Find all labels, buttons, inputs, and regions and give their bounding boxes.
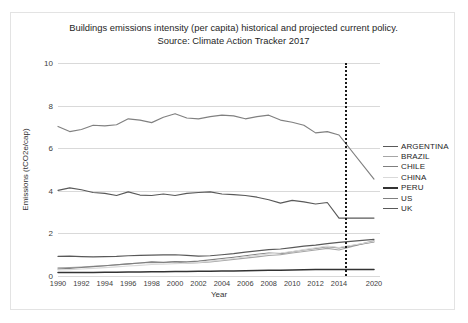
legend-swatch-icon: [383, 156, 398, 157]
series-line-brazil: [58, 241, 374, 268]
data-lines: [58, 63, 380, 276]
legend-item-china[interactable]: CHINA: [383, 172, 449, 182]
y-tick-label: 2: [49, 229, 53, 238]
legend-item-label: CHINA: [401, 173, 426, 182]
legend-item-chile[interactable]: CHILE: [383, 162, 449, 172]
y-tick-label: 10: [44, 59, 53, 68]
legend-item-uk[interactable]: UK: [383, 203, 449, 213]
x-tick-label: 2006: [237, 279, 253, 288]
legend-item-brazil[interactable]: BRAZIL: [383, 151, 449, 161]
legend-swatch-icon: [383, 166, 398, 167]
chart-legend: ARGENTINABRAZILCHILECHINAPERUUSUK: [383, 141, 449, 214]
plot-area: 0246810 19901992199419961998200020022004…: [58, 63, 380, 276]
legend-swatch-icon: [383, 198, 398, 199]
series-line-peru: [58, 269, 374, 272]
chart-title: Buildings emissions intensity (per capit…: [11, 21, 456, 47]
projection-divider-line: [345, 63, 347, 276]
chart-title-line-2: Source: Climate Action Tracker 2017: [11, 34, 456, 47]
y-tick-label: 8: [49, 101, 53, 110]
legend-item-label: UK: [401, 204, 412, 213]
x-tick-label: 2014: [331, 279, 347, 288]
legend-item-label: US: [401, 194, 412, 203]
chart-title-line-1: Buildings emissions intensity (per capit…: [11, 21, 456, 34]
x-tick-label: 1990: [50, 279, 66, 288]
x-axis-label: Year: [58, 290, 380, 299]
legend-item-label: CHILE: [401, 162, 425, 171]
legend-item-label: ARGENTINA: [401, 142, 449, 151]
series-line-us: [58, 114, 374, 179]
y-axis-label-text: Emissions (tCO2e/cap): [21, 128, 30, 210]
chart-figure: Buildings emissions intensity (per capit…: [10, 12, 455, 310]
x-tick-label: 2002: [190, 279, 206, 288]
legend-swatch-icon: [383, 187, 398, 189]
y-axis-label: Emissions (tCO2e/cap): [19, 63, 31, 276]
gridline-y-0: [58, 276, 380, 277]
x-tick-label: 2010: [284, 279, 300, 288]
legend-item-peru[interactable]: PERU: [383, 183, 449, 193]
legend-item-label: BRAZIL: [401, 152, 430, 161]
y-tick-label: 6: [49, 144, 53, 153]
x-tick-label: 2008: [261, 279, 277, 288]
x-tick-label: 2000: [167, 279, 183, 288]
legend-item-label: PERU: [401, 183, 424, 192]
legend-item-argentina[interactable]: ARGENTINA: [383, 141, 449, 151]
x-tick-label: 2020: [366, 279, 382, 288]
legend-swatch-icon: [383, 208, 398, 209]
legend-swatch-icon: [383, 146, 398, 147]
legend-swatch-icon: [383, 177, 398, 178]
series-line-uk: [58, 188, 374, 218]
x-tick-label: 1992: [73, 279, 89, 288]
x-tick-label: 2012: [307, 279, 323, 288]
legend-item-us[interactable]: US: [383, 193, 449, 203]
x-tick-label: 2004: [214, 279, 230, 288]
y-tick-label: 4: [49, 186, 53, 195]
x-tick-label: 1998: [143, 279, 159, 288]
x-tick-label: 1994: [97, 279, 113, 288]
x-tick-label: 1996: [120, 279, 136, 288]
